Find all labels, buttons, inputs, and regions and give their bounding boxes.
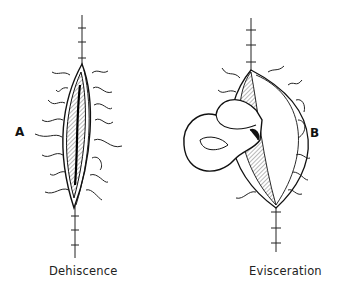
caption-dehiscence: Dehiscence — [49, 264, 118, 278]
panel-label-b: B — [310, 126, 319, 140]
panel-dehiscence: A Dehiscence — [0, 0, 178, 287]
panel-label-a: A — [15, 125, 24, 139]
evisceration-illustration — [178, 0, 357, 287]
panel-evisceration: B Evisceration — [178, 0, 357, 287]
caption-evisceration: Evisceration — [249, 264, 322, 278]
dehiscence-illustration — [0, 0, 178, 287]
